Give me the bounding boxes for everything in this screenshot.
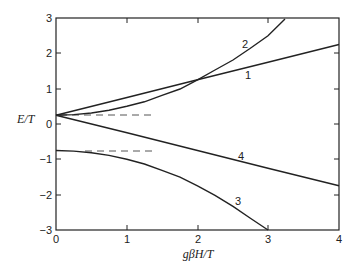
curve-3 bbox=[56, 151, 268, 231]
y-tick-0: 0 bbox=[46, 118, 52, 130]
x-tick-1: 1 bbox=[124, 233, 130, 245]
curve-label-1: 1 bbox=[245, 69, 251, 81]
y-tick-m3: −3 bbox=[39, 224, 52, 236]
x-axis-label: gβH/T bbox=[183, 247, 215, 261]
curve-label-2: 2 bbox=[242, 38, 248, 50]
y-tick-m1: −1 bbox=[39, 153, 52, 165]
y-tick-2: 2 bbox=[46, 47, 52, 59]
curve-label-4: 4 bbox=[238, 150, 244, 162]
curve-label-3: 3 bbox=[235, 195, 241, 207]
x-tick-4: 4 bbox=[336, 233, 342, 245]
y-axis-label: E/T bbox=[16, 112, 36, 126]
x-tick-2: 2 bbox=[195, 233, 201, 245]
y-tick-3: 3 bbox=[46, 12, 52, 24]
plot-frame bbox=[56, 18, 339, 230]
chart: 0 1 2 3 4 3 2 1 0 −1 −2 −3 E/T gβH/T 2 1… bbox=[0, 0, 358, 268]
x-tick-3: 3 bbox=[265, 233, 271, 245]
x-tick-0: 0 bbox=[53, 233, 59, 245]
y-tick-1: 1 bbox=[46, 83, 52, 95]
y-tick-m2: −2 bbox=[39, 189, 52, 201]
y-ticks bbox=[56, 53, 339, 195]
